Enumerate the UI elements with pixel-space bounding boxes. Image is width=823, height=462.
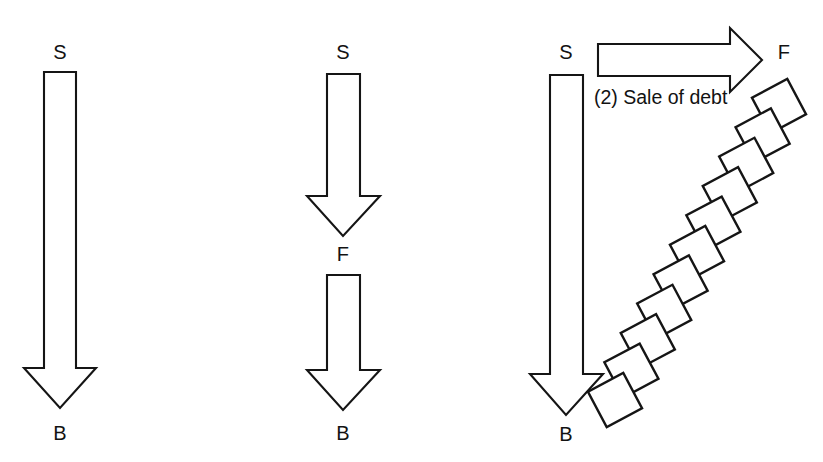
arrow-s-to-f-panel-2: [307, 74, 380, 236]
panel-3-label-bottom: B: [559, 424, 573, 444]
panel-2-label-middle: F: [337, 244, 349, 264]
panel-2-group: [307, 74, 380, 410]
arrow-sale-of-debt-right: [598, 28, 762, 92]
diagram-canvas: S B S F B S B F (2) Sale of debt: [0, 0, 823, 462]
debt-block-chain: [588, 79, 806, 427]
panel-3-label-top: S: [559, 42, 573, 62]
arrow-s-to-b-panel-3: [530, 75, 603, 415]
sale-of-debt-caption: (2) Sale of debt: [594, 88, 727, 108]
arrow-s-to-b-panel-1: [24, 72, 96, 408]
diagram-vector-layer: [0, 0, 823, 462]
panel-1-group: [24, 72, 96, 408]
panel-2-label-bottom: B: [336, 423, 350, 443]
panel-2-label-top: S: [336, 42, 350, 62]
panel-1-label-bottom: B: [53, 423, 67, 443]
arrow-f-to-b-panel-2: [307, 275, 380, 410]
panel-1-label-top: S: [53, 42, 67, 62]
panel-3-label-right: F: [778, 42, 790, 62]
